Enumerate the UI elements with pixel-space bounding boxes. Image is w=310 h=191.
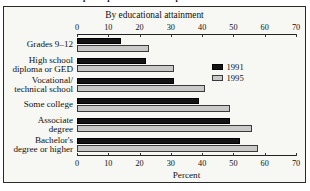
category-label: Vocational/ technical school: [14, 76, 73, 95]
category-label: Associate degree: [38, 116, 73, 135]
bar-group: [77, 35, 296, 55]
axis-tick-label-bottom: 60: [261, 159, 269, 168]
axis-tick-label-top: 70: [292, 23, 300, 32]
bar-group: [77, 75, 296, 95]
chart-figure-frame: By educational attainment Grades 9–12Hig…: [3, 6, 306, 183]
chart-legend: 19911995: [212, 62, 244, 84]
bar-1995: [77, 45, 149, 51]
axis-tick-label-bottom: 0: [75, 159, 79, 168]
bar-1991: [77, 98, 199, 104]
bar-series-container: [77, 35, 296, 155]
figure-caption: Adult education participation rates in t…: [22, 0, 287, 2]
bar-1991: [77, 38, 121, 44]
legend-swatch-1995-icon: [212, 75, 223, 81]
chart-subtitle: By educational attainment: [4, 10, 305, 20]
axis-tick-label-bottom: 10: [104, 159, 112, 168]
axis-tick-label-top: 30: [167, 23, 175, 32]
bar-1995: [77, 65, 174, 71]
bar-group: [77, 135, 296, 155]
bar-group: [77, 95, 296, 115]
axis-tick-bottom: [296, 153, 297, 156]
bar-group: [77, 55, 296, 75]
bar-1991: [77, 58, 146, 64]
bar-group: [77, 115, 296, 135]
bar-1991: [77, 138, 240, 144]
category-axis-labels: Grades 9–12High school diploma or GEDVoc…: [4, 34, 75, 156]
axis-tick-label-bottom: 50: [229, 159, 237, 168]
bar-1991: [77, 78, 174, 84]
axis-line-bottom: [77, 155, 296, 156]
axis-tick-top: [296, 34, 297, 37]
axis-tick-label-top: 0: [75, 23, 79, 32]
axis-tick-label-top: 20: [135, 23, 143, 32]
axis-tick-label-top: 40: [198, 23, 206, 32]
legend-label: 1995: [227, 73, 244, 83]
legend-item-1995[interactable]: 1995: [212, 73, 244, 83]
bar-1995: [77, 85, 205, 91]
legend-label: 1991: [227, 62, 244, 72]
category-label: Grades 9–12: [27, 40, 73, 49]
chart-plot-area: 010203040506070 010203040506070: [77, 34, 296, 156]
axis-tick-label-top: 50: [229, 23, 237, 32]
legend-item-1991[interactable]: 1991: [212, 62, 244, 72]
bar-1995: [77, 105, 230, 111]
axis-tick-label-bottom: 40: [198, 159, 206, 168]
bar-1991: [77, 118, 230, 124]
axis-tick-label-top: 60: [261, 23, 269, 32]
legend-swatch-1991-icon: [212, 64, 223, 70]
category-label: High school diploma or GED: [12, 56, 73, 75]
category-label: Bachelor's degree or higher: [13, 136, 73, 155]
axis-tick-label-top: 10: [104, 23, 112, 32]
bar-1995: [77, 125, 252, 131]
axis-tick-label-bottom: 30: [167, 159, 175, 168]
axis-tick-label-bottom: 20: [135, 159, 143, 168]
category-label: Some college: [24, 100, 73, 109]
bar-1995: [77, 145, 258, 151]
x-axis-title: Percent: [77, 170, 296, 180]
axis-tick-label-bottom: 70: [292, 159, 300, 168]
